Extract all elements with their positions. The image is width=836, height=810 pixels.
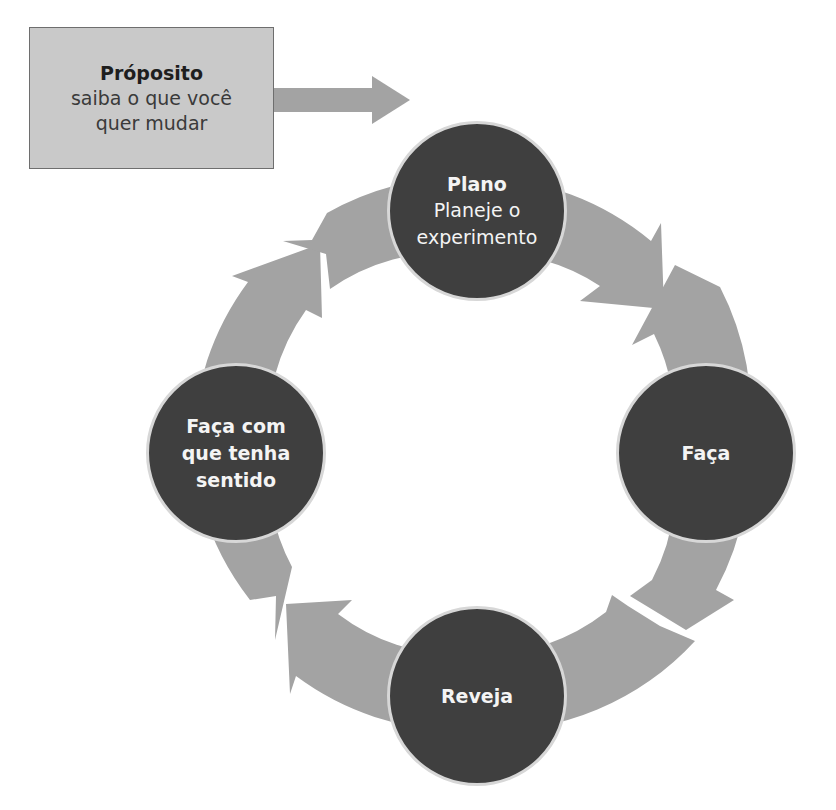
purpose-arrow-icon [274,76,410,124]
purpose-description-line-1: saiba o que você [71,86,232,111]
node-do: Faça [616,363,796,543]
node-plan: Plano Planeje o experimento [387,121,567,301]
node-plan-description-line-1: Planeje o [434,197,521,224]
node-make-sense-line-2: que tenha [182,440,290,467]
purpose-title: Próposito [100,61,203,86]
node-plan-title: Plano [447,171,507,197]
node-make-sense: Faça com que tenha sentido [146,363,326,543]
node-review: Reveja [387,606,567,786]
pdca-cycle-diagram: Próposito saiba o que você quer mudar Pl… [0,0,836,810]
node-make-sense-line-3: sentido [196,467,276,494]
node-plan-description-line-2: experimento [417,224,538,251]
node-make-sense-line-1: Faça com [186,413,286,440]
node-review-title: Reveja [441,683,513,709]
purpose-box: Próposito saiba o que você quer mudar [29,27,274,169]
node-do-title: Faça [682,440,731,466]
purpose-description-line-2: quer mudar [96,111,208,136]
